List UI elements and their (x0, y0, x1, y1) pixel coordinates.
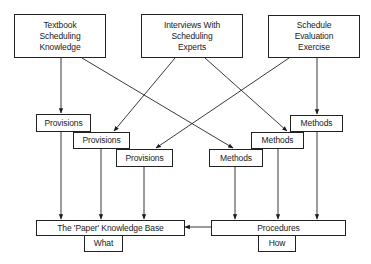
source-evaluation-line-2: Evaluation (295, 31, 334, 42)
methods-label-3: Methods (301, 118, 333, 129)
provisions-box-1: Provisions (36, 114, 91, 132)
knowledge-base-what-tab: What (84, 235, 123, 252)
methods-box-1: Methods (209, 149, 263, 167)
procedures-how-label: How (269, 238, 286, 249)
provisions-label-2: Provisions (82, 135, 120, 146)
source-textbook-line-3: Knowledge (39, 42, 80, 53)
source-textbook-line-1: Textbook (43, 20, 76, 31)
source-interviews-line-1: Interviews With (164, 20, 220, 31)
procedures-box: Procedures (211, 220, 346, 236)
provisions-box-2: Provisions (73, 132, 130, 149)
source-textbook-box: Textbook Scheduling Knowledge (14, 14, 106, 58)
procedures-title: Procedures (257, 223, 299, 234)
knowledge-base-what-label: What (94, 238, 113, 249)
source-evaluation-line-1: Schedule (297, 20, 332, 31)
source-textbook-line-2: Scheduling (39, 31, 80, 42)
methods-label-2: Methods (262, 135, 294, 146)
provisions-label-3: Provisions (125, 153, 163, 164)
knowledge-base-box: The 'Paper' Knowledge Base (36, 220, 185, 236)
source-evaluation-box: Schedule Evaluation Exercise (268, 15, 360, 58)
methods-box-3: Methods (290, 115, 343, 132)
methods-box-2: Methods (251, 132, 304, 149)
source-interviews-box: Interviews With Scheduling Experts (141, 14, 243, 58)
methods-label-1: Methods (220, 153, 252, 164)
provisions-box-3: Provisions (116, 149, 173, 167)
source-interviews-line-2: Scheduling (171, 31, 212, 42)
arrow-interviews-to-provisions-2 (114, 58, 175, 131)
source-evaluation-line-3: Exercise (298, 42, 330, 53)
source-interviews-line-3: Experts (178, 42, 206, 53)
arrow-interviews-to-methods-2 (205, 58, 287, 131)
procedures-how-tab: How (258, 235, 296, 252)
knowledge-base-title: The 'Paper' Knowledge Base (57, 223, 164, 234)
provisions-label-1: Provisions (44, 118, 82, 129)
